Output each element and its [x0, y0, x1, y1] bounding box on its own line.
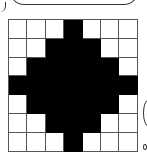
grid-cell-r4-c2: [46, 95, 64, 114]
grid-cell-r6-c4: [83, 133, 101, 152]
grid-cell-r5-c5: [101, 114, 119, 133]
grid-cell-r3-c1: [27, 76, 45, 95]
grid-cell-r2-c3: [64, 58, 82, 77]
grid-cell-r0-c5: [101, 20, 119, 39]
grid-cell-r0-c3: [64, 20, 82, 39]
grid-cell-r3-c5: [101, 76, 119, 95]
grid-cell-r5-c4: [83, 114, 101, 133]
grid-cell-r1-c6: [119, 39, 137, 58]
grid-cell-r1-c3: [64, 39, 82, 58]
grid-cell-r6-c6: [119, 133, 137, 152]
grid-cell-r0-c4: [83, 20, 101, 39]
grid-cell-r1-c4: [83, 39, 101, 58]
grid-cell-r6-c3: [64, 133, 82, 152]
grid-cell-r6-c2: [46, 133, 64, 152]
grid-cell-r2-c2: [46, 58, 64, 77]
grid-cell-r3-c6: [119, 76, 137, 95]
grid-cell-r6-c5: [101, 133, 119, 152]
grid-cell-r0-c1: [27, 20, 45, 39]
grid-cell-r4-c6: [119, 95, 137, 114]
grid-cell-r5-c1: [27, 114, 45, 133]
grid-cell-r5-c0: [9, 114, 27, 133]
grid-cell-r0-c2: [46, 20, 64, 39]
grid-cell-r3-c4: [83, 76, 101, 95]
grid-cell-r2-c1: [27, 58, 45, 77]
grid-cell-r2-c0: [9, 58, 27, 77]
grid-cell-r4-c3: [64, 95, 82, 114]
grid-cell-r4-c4: [83, 95, 101, 114]
grid-cell-r1-c5: [101, 39, 119, 58]
grid-cell-r2-c5: [101, 58, 119, 77]
grid-cell-r2-c4: [83, 58, 101, 77]
grid-cell-r3-c0: [9, 76, 27, 95]
grid-cell-r4-c5: [101, 95, 119, 114]
grid-cell-r5-c2: [46, 114, 64, 133]
grid-cell-r4-c1: [27, 95, 45, 114]
grid-cell-r5-c6: [119, 114, 137, 133]
grid-cell-r6-c0: [9, 133, 27, 152]
grid-cell-r5-c3: [64, 114, 82, 133]
grid-cell-r6-c1: [27, 133, 45, 152]
grid-cell-r4-c0: [9, 95, 27, 114]
grid-cell-r0-c0: [9, 20, 27, 39]
grid-cell-r3-c2: [46, 76, 64, 95]
grid-cell-r1-c2: [46, 39, 64, 58]
pixel-grid: [8, 19, 138, 152]
grid-cell-r1-c0: [9, 39, 27, 58]
speech-bubble-edge: [10, 0, 138, 5]
grid-cell-r2-c6: [119, 58, 137, 77]
decorative-dot: [143, 144, 147, 150]
grid-cell-r0-c6: [119, 20, 137, 39]
decorative-oval: [143, 100, 147, 126]
grid-cell-r3-c3: [64, 76, 82, 95]
grid-cell-r1-c1: [27, 39, 45, 58]
decorative-curve: [0, 2, 6, 12]
